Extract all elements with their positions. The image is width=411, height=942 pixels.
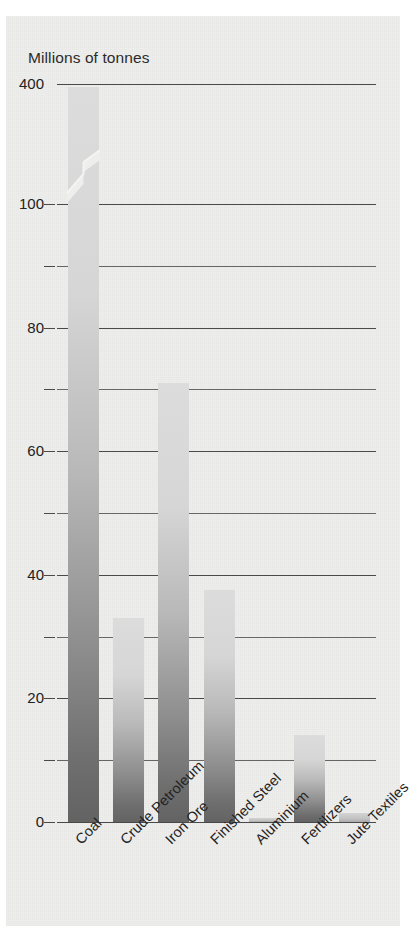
gridline-major <box>57 84 376 85</box>
y-tick-mark <box>44 637 55 638</box>
gridline-major <box>57 451 376 452</box>
y-tick-mark <box>44 513 55 514</box>
y-tick-mark <box>44 760 55 761</box>
bar-fill <box>68 87 99 822</box>
y-tick-mark <box>44 698 55 699</box>
gridline-minor <box>57 389 376 390</box>
gridline-major <box>57 204 376 205</box>
y-tick-mark <box>44 389 55 390</box>
y-tick-mark <box>44 204 55 205</box>
gridline-major <box>57 575 376 576</box>
y-tick-mark <box>44 266 55 267</box>
gridline-major <box>57 328 376 329</box>
bar-crude-petroleum[interactable] <box>113 618 144 822</box>
y-tick-label: 80 <box>2 319 44 336</box>
y-tick-label: 0 <box>2 813 44 830</box>
bar-coal[interactable] <box>68 87 99 822</box>
gridline-minor <box>57 266 376 267</box>
y-tick-mark <box>44 451 55 452</box>
bar-fill <box>204 590 235 822</box>
y-tick-mark <box>44 822 55 823</box>
y-tick-label: 40 <box>2 566 44 583</box>
y-tick-label: 400 <box>2 75 44 92</box>
y-tick-mark <box>44 328 55 329</box>
gridline-minor <box>57 513 376 514</box>
bar-iron-ore[interactable] <box>158 383 189 822</box>
y-tick-label: 100 <box>2 195 44 212</box>
bar-fill <box>113 618 144 822</box>
bar-finished-steel[interactable] <box>204 590 235 822</box>
y-tick-mark <box>44 575 55 576</box>
bar-fill <box>158 383 189 822</box>
y-tick-label: 20 <box>2 689 44 706</box>
y-tick-label: 60 <box>2 442 44 459</box>
